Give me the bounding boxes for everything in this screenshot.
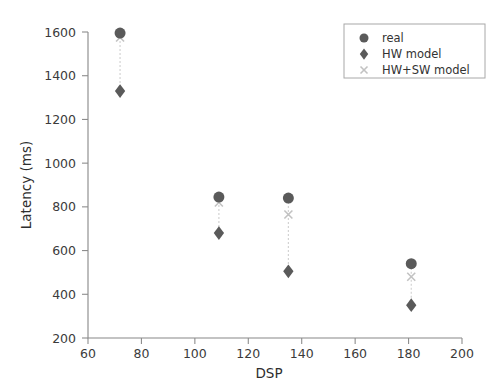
x-tick-label: 100 — [183, 346, 207, 361]
y-tick-label: 400 — [52, 287, 76, 302]
x-tick-label: 180 — [397, 346, 421, 361]
x-tick-label: 200 — [450, 346, 474, 361]
y-tick-label: 1000 — [44, 156, 76, 171]
x-tick-label: 60 — [80, 346, 96, 361]
data-point-diamond — [115, 84, 125, 98]
data-point-diamond — [214, 226, 224, 240]
data-point-circle — [283, 193, 294, 204]
legend-label: HW+SW model — [382, 63, 470, 77]
y-tick-label: 1600 — [44, 25, 76, 40]
y-tick-label: 1400 — [44, 68, 76, 83]
y-axis-title: Latency (ms) — [18, 141, 34, 229]
data-point-x — [407, 273, 415, 281]
data-point-diamond — [406, 298, 416, 312]
data-point-circle — [213, 192, 224, 203]
x-tick-label: 160 — [343, 346, 367, 361]
data-point-circle — [115, 28, 126, 39]
y-tick-label: 200 — [52, 331, 76, 346]
x-tick-label: 80 — [133, 346, 149, 361]
data-point-circle — [406, 258, 417, 269]
data-point-diamond — [283, 264, 293, 278]
y-tick-label: 600 — [52, 243, 76, 258]
legend-label: real — [382, 31, 404, 45]
legend: realHW modelHW+SW model — [344, 24, 485, 78]
legend-circle-marker — [360, 34, 369, 43]
y-tick-label: 800 — [52, 199, 76, 214]
legend-label: HW model — [382, 47, 441, 61]
chart-figure: 2004006008001000120014001600 60801001201… — [0, 0, 499, 391]
scatter-plot: 2004006008001000120014001600 60801001201… — [0, 0, 499, 391]
x-axis: 6080100120140160180200 — [80, 338, 474, 361]
x-tick-label: 120 — [236, 346, 260, 361]
y-axis: 2004006008001000120014001600 — [44, 25, 88, 346]
x-axis-title: DSP — [255, 365, 282, 381]
y-tick-label: 1200 — [44, 112, 76, 127]
x-tick-label: 140 — [290, 346, 314, 361]
